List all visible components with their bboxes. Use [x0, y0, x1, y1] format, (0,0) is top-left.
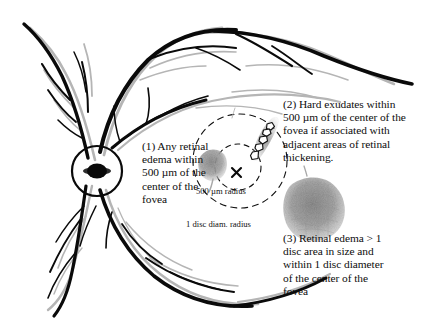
label-one-disc-diameter-radius: 1 disc diam. radius [186, 219, 251, 229]
hard-exudate-cluster [251, 117, 279, 161]
callout-criterion-2: (2) Hard exudates within 500 µm of the c… [283, 98, 438, 164]
label-500-micron-radius: 500 µm radius [196, 186, 246, 196]
large-retinal-edema-area [283, 166, 345, 241]
callout-criterion-1: (1) Any retinal edema within 500 µm of t… [142, 140, 228, 206]
callout-criterion-3: (3) Retinal edema > 1 disc area in size … [283, 232, 435, 298]
optic-disc [72, 146, 122, 196]
fovea-center-marker [232, 168, 241, 177]
label-leader-tick [232, 108, 235, 118]
csme-retina-figure: (1) Any retinal edema within 500 µm of t… [0, 0, 438, 323]
